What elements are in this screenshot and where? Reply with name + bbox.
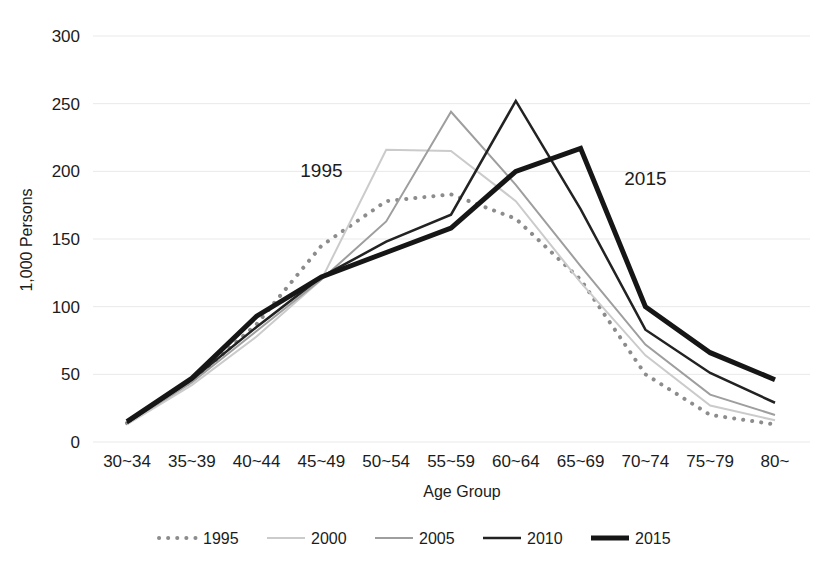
- y-axis-title: 1,000 Persons: [18, 188, 35, 291]
- line-chart: 050100150200250300 30~3435~3940~4445~495…: [0, 0, 832, 572]
- y-tick-label: 150: [52, 230, 80, 249]
- x-tick-label: 35~39: [168, 452, 216, 471]
- y-tick-label: 50: [61, 365, 80, 384]
- x-tick-label: 60~64: [492, 452, 540, 471]
- x-tick-label: 75~79: [686, 452, 734, 471]
- x-tick-label: 80~: [761, 452, 790, 471]
- x-tick-label: 45~49: [298, 452, 346, 471]
- annotation-label-2015: 2015: [624, 168, 666, 189]
- x-tick-label: 30~34: [103, 452, 151, 471]
- x-tick-label: 65~69: [557, 452, 605, 471]
- legend-label-1995: 1995: [203, 530, 239, 547]
- x-tick-label: 55~59: [427, 452, 475, 471]
- x-axis-title: Age Group: [423, 483, 500, 500]
- chart-background: [0, 0, 832, 572]
- x-tick-label: 40~44: [233, 452, 281, 471]
- y-tick-label: 300: [52, 27, 80, 46]
- annotation-label-1995: 1995: [300, 160, 342, 181]
- legend-label-2000: 2000: [311, 530, 347, 547]
- legend-label-2010: 2010: [527, 530, 563, 547]
- chart-canvas: 050100150200250300 30~3435~3940~4445~495…: [0, 0, 832, 572]
- y-tick-label: 250: [52, 95, 80, 114]
- y-tick-label: 100: [52, 298, 80, 317]
- legend-label-2005: 2005: [419, 530, 455, 547]
- x-tick-label: 70~74: [622, 452, 670, 471]
- y-tick-label: 200: [52, 162, 80, 181]
- x-axis-tick-labels: 30~3435~3940~4445~4950~5455~5960~6465~69…: [103, 452, 789, 471]
- legend-label-2015: 2015: [635, 530, 671, 547]
- y-tick-label: 0: [71, 433, 80, 452]
- x-tick-label: 50~54: [362, 452, 410, 471]
